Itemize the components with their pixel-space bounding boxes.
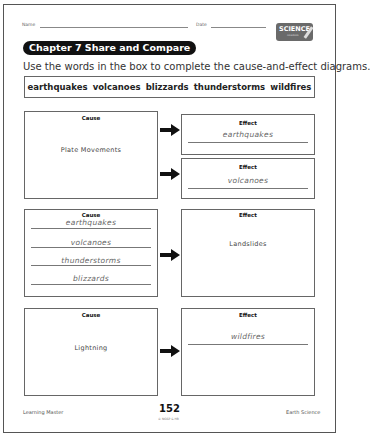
name-field[interactable] bbox=[40, 27, 188, 28]
effect-answer[interactable]: volcanoes bbox=[182, 176, 314, 185]
cause-answer[interactable]: volcanoes bbox=[25, 238, 157, 247]
word-bank-item: blizzards bbox=[146, 82, 189, 92]
answer-line bbox=[31, 228, 151, 229]
effect-box-1b: Effect volcanoes bbox=[181, 158, 315, 199]
effect-box-1a: Effect earthquakes bbox=[181, 114, 315, 155]
word-bank-item: wildfires bbox=[270, 82, 311, 92]
effect-header: Effect bbox=[182, 312, 314, 318]
cause-text: Plate Movements bbox=[25, 146, 157, 154]
arrow-right-icon bbox=[160, 345, 180, 357]
word-bank-item: earthquakes bbox=[28, 82, 88, 92]
name-label: Name bbox=[22, 22, 35, 27]
cause-header: Cause bbox=[25, 115, 157, 121]
answer-line bbox=[31, 284, 151, 285]
effect-box-3: Effect wildfires bbox=[181, 308, 315, 396]
answer-line bbox=[188, 142, 308, 143]
arrow-right-icon bbox=[160, 168, 180, 180]
cause-answer[interactable]: blizzards bbox=[25, 274, 157, 283]
cause-box-3: Cause Lightning bbox=[24, 308, 158, 396]
effect-text: Landslides bbox=[182, 240, 314, 248]
page-number: 152 bbox=[159, 403, 180, 414]
logo-subtext: notebook bbox=[287, 35, 313, 37]
worksheet-page: Name Date SCIENCE notebook Chapter 7 Sha… bbox=[3, 4, 336, 433]
answer-line bbox=[31, 265, 151, 266]
effect-header: Effect bbox=[182, 120, 314, 126]
word-box: earthquakes volcanoes blizzards thunders… bbox=[24, 76, 315, 98]
answer-line bbox=[188, 344, 308, 345]
cause-text: Lightning bbox=[25, 344, 157, 352]
logo-text: SCIENCE bbox=[279, 25, 310, 33]
cause-box-1: Cause Plate Movements bbox=[24, 111, 158, 199]
cause-answer[interactable]: thunderstorms bbox=[25, 256, 157, 265]
answer-line bbox=[31, 247, 151, 248]
arrow-right-icon bbox=[160, 249, 180, 261]
effect-answer[interactable]: earthquakes bbox=[182, 130, 314, 139]
date-field[interactable] bbox=[211, 27, 266, 28]
cause-answer[interactable]: earthquakes bbox=[25, 218, 157, 227]
effect-box-2: Effect Landslides bbox=[181, 209, 315, 297]
chapter-title: Chapter 7 Share and Compare bbox=[23, 41, 196, 55]
cause-header: Cause bbox=[25, 312, 157, 318]
effect-header: Effect bbox=[182, 164, 314, 170]
footer-left: Learning Master bbox=[23, 409, 63, 415]
copyright: © NGSP & HB bbox=[158, 417, 179, 421]
footer-right: Earth Science bbox=[286, 409, 320, 415]
word-bank-item: thunderstorms bbox=[194, 82, 265, 92]
instructions: Use the words in the box to complete the… bbox=[23, 61, 370, 72]
effect-header: Effect bbox=[182, 212, 314, 218]
answer-line bbox=[188, 188, 308, 189]
arrow-right-icon bbox=[160, 124, 180, 136]
cause-box-2: Cause earthquakes volcanoes thunderstorm… bbox=[24, 209, 158, 297]
effect-answer[interactable]: wildfires bbox=[182, 332, 314, 341]
date-label: Date bbox=[196, 22, 207, 27]
word-bank-item: volcanoes bbox=[93, 82, 141, 92]
science-notebook-logo: SCIENCE notebook bbox=[276, 23, 313, 41]
